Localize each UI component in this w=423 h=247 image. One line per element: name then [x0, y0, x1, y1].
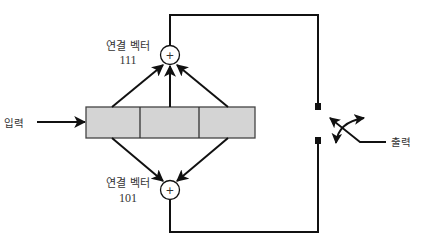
- bottom-output-wire: [170, 142, 318, 232]
- switch-rotation-arrow: [336, 118, 364, 143]
- top-output-wire: [170, 15, 318, 105]
- tap-top-3-arrow: [177, 65, 228, 107]
- switch-terminal-bottom: [315, 137, 321, 144]
- bottom-adder-vector: 101: [119, 191, 137, 205]
- convolutional-encoder-diagram: 입력 + 연결 벡터 111 + 연결 벡터 101 출력: [0, 0, 423, 247]
- tap-top-1-arrow: [112, 65, 163, 107]
- top-adder: +: [161, 46, 180, 65]
- top-adder-label: 연결 벡터: [106, 40, 150, 53]
- top-adder-plus-icon: +: [166, 49, 175, 61]
- input-label: 입력: [4, 117, 24, 129]
- bottom-adder-plus-icon: +: [166, 184, 175, 196]
- bottom-adder: +: [161, 181, 180, 200]
- bottom-adder-label: 연결 벡터: [106, 177, 150, 190]
- output-label: 출력: [391, 136, 411, 148]
- switch-terminal-top: [315, 103, 321, 110]
- switch-arm-arrow: [330, 118, 386, 142]
- register-body: [86, 107, 255, 138]
- top-adder-vector: 111: [119, 53, 136, 67]
- shift-register: [86, 107, 255, 138]
- tap-bottom-3-arrow: [177, 138, 228, 181]
- tap-bottom-1-arrow: [112, 138, 163, 181]
